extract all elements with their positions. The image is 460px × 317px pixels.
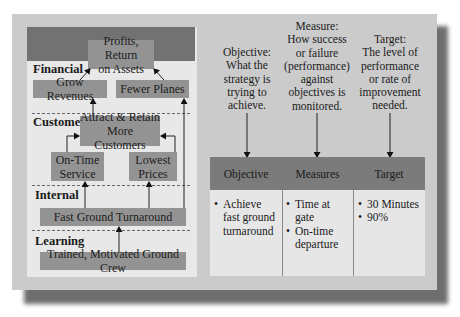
header-target: Target [353, 157, 425, 190]
target-desc-line: or rate of [350, 73, 430, 86]
target-desc-line: The level of [350, 46, 430, 59]
measure-desc-line: monitored. [275, 100, 359, 113]
target-desc-line: Target: [350, 33, 430, 46]
target-desc-line: improvement [350, 86, 430, 99]
target-description: Target: The level of performance or rate… [350, 33, 430, 113]
measure-item: Time at gate [286, 198, 352, 225]
target-desc-line: needed. [350, 99, 430, 112]
measure-desc-line: against [275, 73, 359, 86]
header-measures: Measures [282, 157, 353, 190]
header-objective: Objective [210, 157, 282, 190]
target-desc-line: performance [350, 60, 430, 73]
objective-desc-line: strategy is [210, 73, 284, 86]
objective-desc-line: What the [210, 59, 284, 72]
objectives-table: Objective Measures Target Achieve fast g… [210, 157, 425, 276]
objective-desc-line: trying to [210, 86, 284, 99]
cell-measures: Time at gate On-time departure [286, 198, 352, 251]
column-divider [353, 190, 354, 276]
objective-description: Objective: What the strategy is trying t… [210, 46, 284, 112]
objective-item: Achieve fast ground turnaround [214, 198, 280, 238]
target-item: 30 Minutes [358, 198, 424, 211]
cell-target: 30 Minutes 90% [358, 198, 424, 225]
objective-desc-line: Objective: [210, 46, 284, 59]
cell-objective: Achieve fast ground turnaround [214, 198, 280, 238]
column-divider [282, 190, 283, 276]
measure-desc-line: (performance) [275, 60, 359, 73]
measure-description: Measure: How success or failure (perform… [275, 20, 359, 113]
target-item: 90% [358, 211, 424, 224]
measure-desc-line: or failure [275, 47, 359, 60]
measure-desc-line: objectives is [275, 86, 359, 99]
measure-item: On-time departure [286, 225, 352, 252]
measure-desc-line: Measure: [275, 20, 359, 33]
measure-desc-line: How success [275, 33, 359, 46]
objective-desc-line: achieve. [210, 99, 284, 112]
